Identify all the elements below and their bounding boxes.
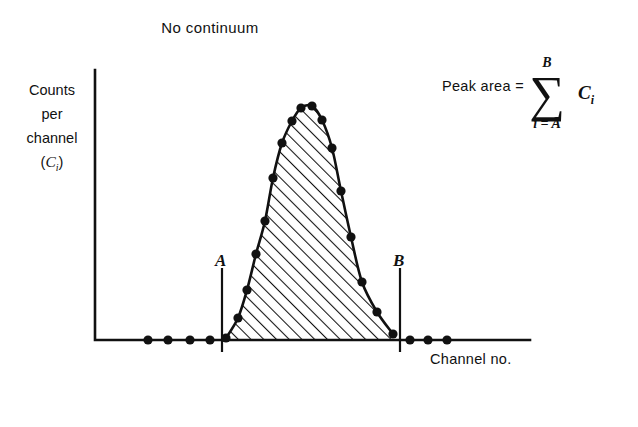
data-point xyxy=(423,335,432,344)
figure-no-continuum: No continuum Counts per channel (Ci) Cha… xyxy=(0,0,638,427)
data-point xyxy=(143,335,152,344)
plot-canvas xyxy=(0,0,638,427)
data-point xyxy=(388,329,397,338)
data-point xyxy=(221,333,230,342)
data-point xyxy=(357,277,366,286)
data-point xyxy=(296,103,305,112)
data-point xyxy=(317,115,326,124)
data-point xyxy=(442,335,451,344)
data-point xyxy=(307,101,316,110)
data-point xyxy=(205,335,214,344)
data-point xyxy=(185,335,194,344)
data-point xyxy=(372,307,381,316)
data-point xyxy=(251,249,260,258)
data-point xyxy=(277,138,286,147)
data-point xyxy=(405,335,414,344)
data-point xyxy=(268,173,277,182)
data-point xyxy=(260,216,269,225)
data-point xyxy=(233,313,242,322)
data-point xyxy=(336,186,345,195)
data-point xyxy=(346,232,355,241)
peak-area-hatched-region xyxy=(226,105,393,340)
data-point xyxy=(163,335,172,344)
data-point xyxy=(287,116,296,125)
data-point xyxy=(327,143,336,152)
data-point xyxy=(242,285,251,294)
